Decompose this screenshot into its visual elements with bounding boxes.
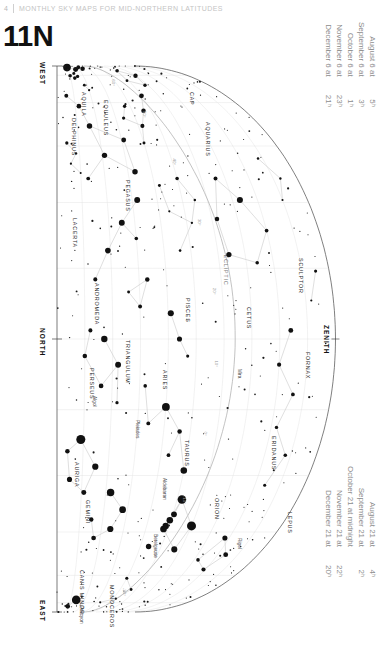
star	[115, 362, 121, 368]
constellation-label: PERSEUS	[89, 368, 95, 399]
star	[165, 363, 166, 364]
star-name-label: Mira	[237, 369, 242, 379]
star	[308, 396, 310, 398]
star	[284, 453, 288, 457]
star	[101, 67, 102, 68]
star	[145, 277, 150, 282]
star-name-label: Algol	[92, 396, 97, 407]
star	[260, 157, 261, 158]
star	[263, 484, 266, 487]
star	[168, 550, 169, 551]
star	[127, 532, 128, 533]
star	[60, 247, 61, 248]
star	[222, 535, 227, 540]
star	[169, 594, 170, 595]
star	[223, 552, 228, 557]
star	[230, 566, 231, 567]
star	[226, 252, 231, 257]
date-top-row: August 6 at5ʰ	[367, 22, 378, 107]
star	[93, 451, 95, 453]
constellation-line	[279, 365, 293, 395]
star	[152, 509, 153, 510]
star	[128, 484, 129, 485]
date-bottom-hour: 22ʰ	[334, 551, 345, 577]
date-bottom-row: December 21 at20ʰ	[323, 466, 334, 577]
date-bottom-row: August 21 at4ʰ	[367, 466, 378, 577]
star	[91, 74, 92, 75]
date-bottom-hour: 2ʰ	[356, 551, 367, 577]
star	[91, 536, 96, 541]
date-bottom-when: December 21 at	[323, 490, 334, 547]
star	[107, 489, 114, 496]
star	[158, 209, 159, 210]
star	[163, 523, 169, 529]
star	[247, 538, 248, 539]
star	[115, 401, 118, 404]
star	[58, 123, 59, 124]
constellation-figure	[95, 200, 137, 279]
star	[229, 508, 230, 509]
star	[276, 416, 277, 417]
declination-tick-label: 40°	[172, 158, 177, 165]
star	[65, 73, 66, 74]
star-name-label: Pleiades	[135, 420, 140, 439]
star	[92, 572, 93, 573]
star	[101, 336, 107, 342]
star	[140, 539, 141, 540]
declination-tick-label: 30°	[197, 219, 202, 226]
date-top-when: November 6 at	[334, 24, 345, 76]
star	[113, 68, 114, 69]
star	[171, 511, 177, 517]
star	[93, 277, 97, 281]
star	[187, 175, 188, 176]
star	[236, 113, 237, 114]
star	[78, 599, 79, 600]
constellation-line	[257, 231, 266, 263]
star	[248, 130, 250, 132]
constellation-label: AQUARIUS	[205, 122, 211, 157]
star	[264, 537, 265, 538]
star	[134, 197, 140, 203]
constellation-line	[216, 179, 218, 219]
constellation-figure	[311, 271, 315, 300]
star	[100, 66, 101, 67]
star	[191, 417, 193, 419]
constellation-line	[122, 223, 137, 239]
constellation-line	[110, 510, 122, 529]
star	[110, 560, 111, 561]
star	[224, 204, 225, 205]
star	[186, 355, 189, 358]
star	[162, 403, 170, 411]
star	[235, 300, 236, 301]
star	[173, 551, 174, 552]
star	[183, 162, 184, 163]
star	[67, 603, 69, 605]
star	[107, 494, 108, 495]
star	[82, 66, 83, 67]
star	[78, 294, 79, 295]
date-bottom-when: August 21 at	[367, 502, 378, 547]
constellation-figure	[198, 538, 226, 570]
star	[177, 429, 182, 434]
star	[67, 68, 69, 70]
star	[251, 365, 253, 367]
star	[92, 464, 98, 470]
constellation-label: FORNAX	[305, 352, 311, 379]
star	[216, 532, 217, 533]
star	[214, 177, 218, 181]
star	[58, 97, 59, 98]
constellation-line	[217, 219, 229, 255]
star	[263, 510, 264, 511]
declination-tick-label: -30°	[122, 588, 127, 596]
star	[71, 181, 72, 182]
star	[143, 384, 147, 388]
star	[215, 217, 220, 222]
star	[153, 226, 155, 228]
constellation-label: PISCES	[185, 298, 191, 323]
ecliptic-label: ECLIPTIC	[223, 255, 229, 286]
star	[210, 581, 211, 582]
star	[237, 211, 238, 212]
star	[81, 368, 82, 369]
constellation-line	[124, 118, 143, 126]
star	[257, 157, 260, 160]
